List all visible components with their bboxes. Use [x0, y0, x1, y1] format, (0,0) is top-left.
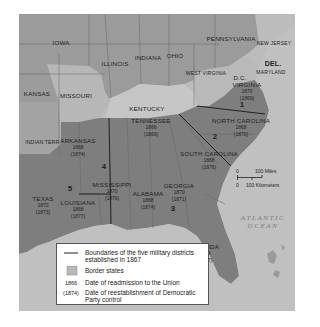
- state-name: MISSISSIPPI: [93, 181, 132, 188]
- state-label-virginia: VIRGINIA1870(1869): [233, 82, 262, 101]
- legend-text: Date of readmission to the Union: [85, 279, 180, 286]
- state-name: PENNSYLVANIA: [207, 35, 256, 42]
- state-label-alabama: ALABAMA1868(1874): [133, 191, 164, 210]
- state-name: ARKANSAS: [60, 137, 95, 144]
- district-boundary-line-icon: [61, 250, 81, 257]
- readmission-date-key: 1866: [61, 280, 81, 287]
- legend-text: Border states: [85, 267, 124, 274]
- border-state-swatch-icon: [61, 266, 81, 278]
- state-label-missouri: MISSOURI: [60, 93, 92, 99]
- state-label-illinois: ILLINOIS: [101, 61, 128, 67]
- democratic-control-date: (1874): [60, 151, 95, 157]
- legend-item-border-states: Border states: [61, 267, 206, 277]
- democratic-control-date: (1869): [233, 95, 262, 101]
- scale-bar: 0 100 Miles 0 100 Kilometers: [236, 168, 295, 194]
- state-label-indiana: INDIANA: [135, 55, 162, 61]
- state-label-kentucky: KENTUCKY: [129, 106, 164, 112]
- state-label-georgia: GEORGIA1870(1871): [164, 183, 194, 202]
- state-name: D.C.: [233, 74, 246, 81]
- state-name: VIRGINIA: [233, 81, 262, 88]
- legend-text: Date of reestablishment of Democratic Pa…: [85, 289, 197, 303]
- state-label-pennsylvania: PENNSYLVANIA: [207, 36, 256, 42]
- ocean-label-line1: ATLANTIC: [241, 214, 285, 222]
- ocean-label-line2: OCEAN: [248, 222, 279, 230]
- legend-item-readmission: 1866 Date of readmission to the Union: [61, 279, 206, 287]
- state-name: NORTH CAROLINA: [212, 117, 270, 124]
- district-number-4: 4: [102, 162, 106, 171]
- legend-item-democratic-control: (1874) Date of reestablishment of Democr…: [61, 289, 206, 303]
- state-label-south-carolina: SOUTH CAROLINA1868(1876): [180, 151, 238, 170]
- state-name: INDIANA: [135, 54, 162, 61]
- ocean-label: ATLANTIC OCEAN: [241, 214, 285, 230]
- district-number-3: 3: [171, 204, 175, 213]
- state-name: INDIAN TERR.: [25, 139, 61, 145]
- state-name: NEW JERSEY: [257, 40, 292, 46]
- state-name: GEORGIA: [164, 182, 194, 189]
- state-label-new-jersey: NEW JERSEY: [257, 40, 292, 46]
- state-name: MARYLAND: [256, 69, 285, 75]
- state-name: IOWA: [52, 39, 69, 46]
- scale-line: [237, 175, 263, 181]
- state-name: KENTUCKY: [129, 105, 164, 112]
- democratic-control-date: (1874): [133, 204, 164, 210]
- scale-miles-label: 100 Miles: [255, 168, 276, 174]
- state-label-maryland: MARYLAND: [256, 69, 285, 75]
- scale-km-zero: 0: [236, 182, 239, 188]
- state-label-tennessee: TENNESSEE1866(1869): [131, 118, 170, 137]
- democratic-control-date: (1876): [93, 195, 132, 201]
- state-label-delaware: DEL.: [265, 61, 282, 67]
- democratic-control-date: (1869): [131, 131, 170, 137]
- democratic-control-date: (1871): [164, 196, 194, 202]
- state-name: ALABAMA: [133, 190, 164, 197]
- state-name: WEST VIRGINIA: [186, 70, 226, 76]
- state-name: DEL.: [265, 60, 282, 67]
- state-label-mississippi: MISSISSIPPI1870(1876): [93, 182, 132, 201]
- state-label-ohio: OHIO: [167, 53, 184, 59]
- state-label-arkansas: ARKANSAS1868(1874): [60, 138, 95, 157]
- state-label-indian-territory: INDIAN TERR.: [25, 139, 61, 145]
- democratic-control-date: (1870): [212, 131, 270, 137]
- state-label-kansas: KANSAS: [24, 91, 50, 97]
- map-legend: Boundaries of the five military district…: [56, 243, 209, 305]
- district-number-2: 2: [213, 132, 217, 141]
- state-name: ILLINOIS: [101, 60, 128, 67]
- legend-text: Boundaries of the five military district…: [85, 249, 205, 263]
- scale-miles-zero: 0: [236, 168, 239, 174]
- state-name: TENNESSEE: [131, 117, 170, 124]
- legend-item-district-boundaries: Boundaries of the five military district…: [61, 249, 206, 263]
- democratic-control-date: (1877): [61, 213, 96, 219]
- scale-km-label: 100 Kilometers: [246, 182, 279, 188]
- state-name: OHIO: [167, 52, 184, 59]
- district-number-1: 1: [240, 100, 244, 109]
- democratic-control-date: (1876): [180, 164, 238, 170]
- state-name: TEXAS: [32, 195, 53, 202]
- state-label-louisiana: LOUISIANA1868(1877): [61, 200, 96, 219]
- district-number-5: 5: [68, 184, 72, 193]
- state-label-north-carolina: NORTH CAROLINA1868(1870): [212, 118, 270, 137]
- democratic-control-date: (1873): [32, 209, 53, 215]
- state-name: KANSAS: [24, 90, 50, 97]
- democratic-control-date-key: (1874): [61, 290, 81, 297]
- state-name: SOUTH CAROLINA: [180, 150, 238, 157]
- state-name: LOUISIANA: [61, 199, 96, 206]
- state-label-west-virginia: WEST VIRGINIA: [186, 70, 226, 76]
- state-label-texas: TEXAS1870(1873): [32, 196, 53, 215]
- state-name: MISSOURI: [60, 92, 92, 99]
- state-label-iowa: IOWA: [52, 40, 69, 46]
